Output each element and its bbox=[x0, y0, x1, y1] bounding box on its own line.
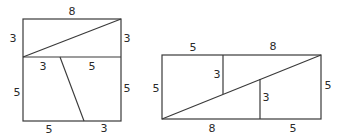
label-lower-right: 5 bbox=[124, 82, 131, 95]
rectangle-diagonal-cut bbox=[162, 55, 321, 119]
label-bottom-left: 8 bbox=[209, 122, 216, 135]
label-bottom-right: 3 bbox=[101, 122, 108, 135]
label-right: 5 bbox=[325, 79, 332, 92]
square-figure: 8 3 3 3 5 5 5 5 3 bbox=[10, 5, 131, 136]
label-middle-left: 3 bbox=[40, 60, 47, 73]
label-upper-left: 3 bbox=[10, 32, 17, 45]
rectangle-figure: 5 8 5 5 3 3 8 5 bbox=[153, 40, 332, 135]
label-top-right: 8 bbox=[270, 40, 277, 53]
square-slant-cut bbox=[60, 57, 84, 121]
label-left: 5 bbox=[153, 82, 160, 95]
label-upper-right: 3 bbox=[124, 32, 131, 45]
label-top: 8 bbox=[69, 5, 76, 18]
square-outline bbox=[23, 19, 121, 121]
square-diagonal-cut bbox=[23, 19, 121, 57]
label-top-left: 5 bbox=[190, 41, 197, 54]
label-lower-left: 5 bbox=[14, 86, 21, 99]
label-inner-left: 3 bbox=[214, 68, 221, 81]
label-bottom-right: 5 bbox=[290, 122, 297, 135]
label-bottom-left: 5 bbox=[46, 123, 53, 136]
label-middle-right: 5 bbox=[89, 60, 96, 73]
diagram-canvas: 8 3 3 3 5 5 5 5 3 5 8 5 5 3 3 8 5 bbox=[0, 0, 340, 140]
label-inner-right: 3 bbox=[263, 91, 270, 104]
